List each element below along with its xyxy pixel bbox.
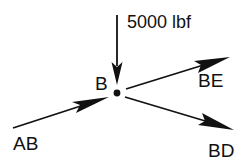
applied-load-arrow (112, 15, 123, 85)
member-ab-label: AB (13, 133, 38, 154)
member-be-label: BE (198, 70, 223, 91)
free-body-diagram: 5000 lbf B AB BE BD (0, 0, 242, 161)
member-bd-label: BD (208, 140, 234, 161)
applied-load-label: 5000 lbf (127, 12, 192, 32)
member-bd-arrow (125, 97, 234, 130)
node-b-dot (114, 90, 121, 97)
member-ab-arrow (13, 97, 109, 128)
node-b-label: B (95, 73, 108, 94)
